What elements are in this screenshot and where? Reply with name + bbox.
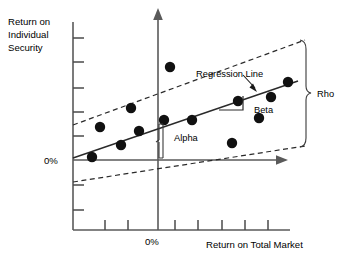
data-point <box>116 140 126 150</box>
rho-bracket <box>300 40 311 147</box>
y-axis-title-line1: Return on <box>8 16 50 27</box>
data-point <box>134 126 144 136</box>
data-point <box>95 122 105 132</box>
alpha-label: Alpha <box>174 133 199 143</box>
regression-line <box>73 81 298 158</box>
regression-diagram: Return on Individual Security 0% 0% Retu… <box>0 0 344 259</box>
regression-line-label: Regression Line <box>196 69 263 79</box>
data-point <box>233 96 243 106</box>
data-point <box>87 152 97 162</box>
x-axis-ticks <box>105 220 268 230</box>
x-zero-label: 0% <box>145 236 159 247</box>
horizontal-axis-arrowhead <box>276 155 288 165</box>
data-point <box>227 138 237 148</box>
rho-label: Rho <box>317 89 334 99</box>
data-point <box>165 62 175 72</box>
vertical-axis-arrowhead <box>153 8 163 20</box>
y-axis-title-line2: Individual <box>8 29 49 40</box>
data-point <box>126 103 136 113</box>
data-point <box>187 115 197 125</box>
y-zero-label: 0% <box>44 155 58 166</box>
data-point <box>283 77 293 87</box>
x-axis-title: Return on Total Market <box>206 239 303 250</box>
y-axis-title-line3: Security <box>8 42 43 53</box>
scatter-plot-canvas: Return on Individual Security 0% 0% Retu… <box>0 0 344 259</box>
labels-group: Return on Individual Security 0% 0% Retu… <box>8 16 334 250</box>
lower-channel-line <box>73 146 305 182</box>
data-point <box>266 92 276 102</box>
beta-label: Beta <box>254 105 274 115</box>
